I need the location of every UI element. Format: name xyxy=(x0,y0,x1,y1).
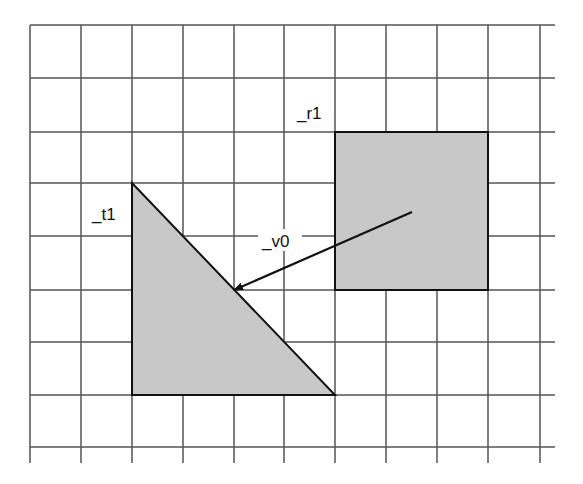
diagram-canvas: _t1 _r1 _v0 xyxy=(0,0,583,484)
triangle-label: _t1 xyxy=(91,205,116,224)
vector-label: _v0 xyxy=(261,232,289,251)
rectangle-label: _r1 xyxy=(296,104,322,123)
rectangle-r1 xyxy=(335,132,488,290)
